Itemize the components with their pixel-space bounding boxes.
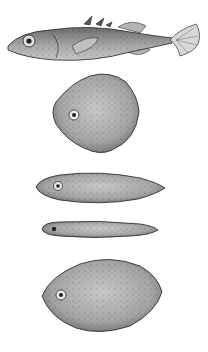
model-oval xyxy=(42,259,162,331)
model-elongate xyxy=(36,173,165,203)
stickleback-fish xyxy=(8,16,200,60)
figure-canvas xyxy=(0,0,208,352)
model-slender xyxy=(42,221,158,237)
illustration xyxy=(0,0,208,352)
model-rhomboid xyxy=(53,74,139,153)
